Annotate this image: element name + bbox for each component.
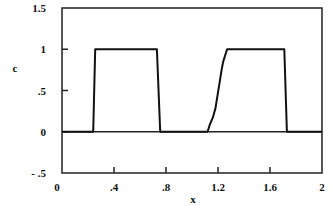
y-tick-label: 1 <box>41 43 47 55</box>
x-tick-label: .4 <box>110 181 119 193</box>
x-axis-ticks: 0.4.81.21.62 <box>54 167 325 193</box>
chart: 1.51.50- .5 0.4.81.21.62 x c <box>0 0 332 206</box>
y-tick-label: - .5 <box>31 167 46 179</box>
y-axis-label: c <box>13 62 18 74</box>
data-series-line <box>62 49 322 132</box>
y-tick-label: .5 <box>38 85 47 97</box>
x-tick-label: 1.6 <box>263 181 277 193</box>
x-tick-label: 2 <box>319 181 325 193</box>
y-tick-label: 1.5 <box>32 2 46 14</box>
x-tick-label: 0 <box>54 181 60 193</box>
x-tick-label: .8 <box>162 181 171 193</box>
plot-frame <box>62 8 322 173</box>
x-axis-label: x <box>190 193 196 205</box>
x-tick-label: 1.2 <box>211 181 225 193</box>
y-tick-label: 0 <box>41 126 47 138</box>
